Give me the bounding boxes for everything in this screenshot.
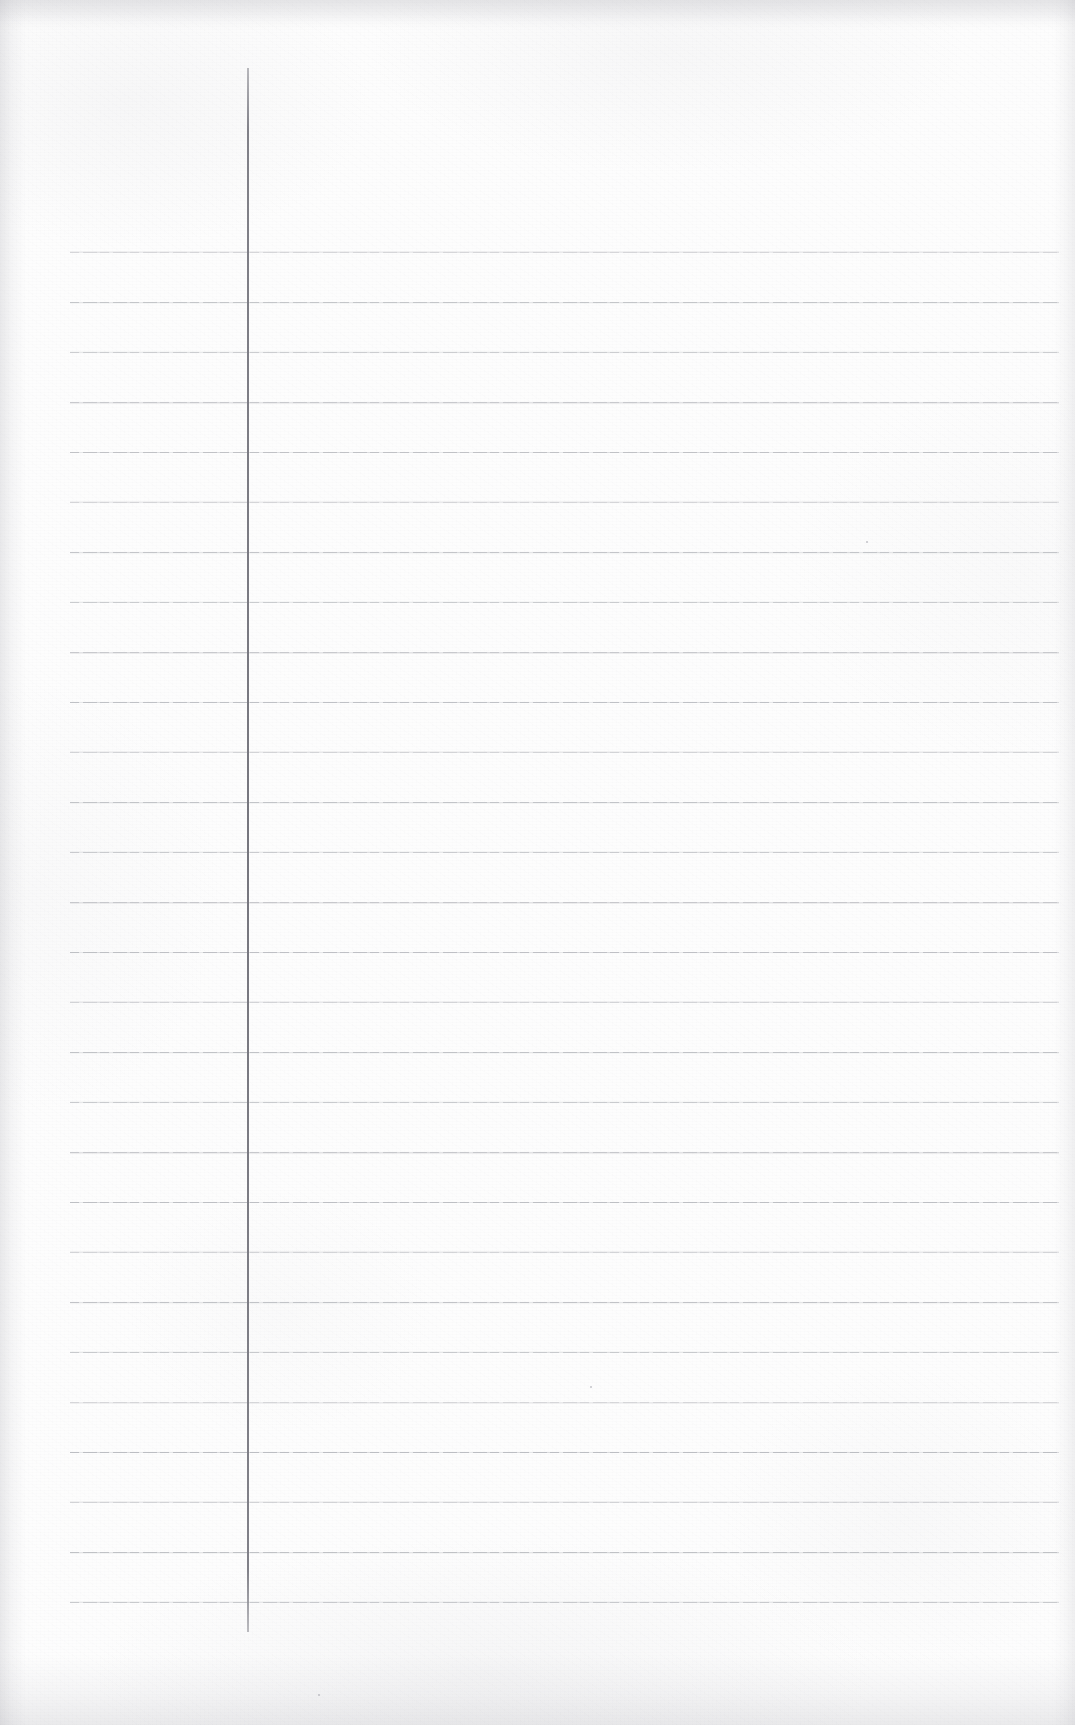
scan-speck (318, 1694, 320, 1696)
rule-line (70, 1202, 1059, 1203)
rule-line (70, 652, 1059, 653)
rule-line (70, 452, 1059, 453)
ruled-lines-layer (0, 0, 1075, 1725)
margin-rule-line (247, 68, 249, 1632)
rule-line (70, 752, 1059, 753)
rule-line (70, 1302, 1059, 1303)
rule-line (70, 502, 1059, 503)
rule-line (70, 1352, 1059, 1353)
rule-line (70, 702, 1059, 703)
scanned-page (0, 0, 1075, 1725)
rule-line (70, 352, 1059, 353)
rule-line (70, 1052, 1059, 1053)
rule-line (70, 302, 1059, 303)
rule-line (70, 802, 1059, 803)
rule-line (70, 1402, 1059, 1403)
rule-line (70, 252, 1059, 253)
rule-line (70, 1102, 1059, 1103)
rule-line (70, 1552, 1059, 1553)
rule-line (70, 1152, 1059, 1153)
rule-line (70, 552, 1059, 553)
rule-line (70, 402, 1059, 403)
rule-line (70, 1002, 1059, 1003)
rule-line (70, 1602, 1059, 1603)
rule-line (70, 602, 1059, 603)
scan-speck (866, 541, 868, 543)
rule-line (70, 1252, 1059, 1253)
rule-line (70, 1452, 1059, 1453)
rule-line (70, 902, 1059, 903)
scan-speck (590, 1386, 592, 1388)
rule-line (70, 852, 1059, 853)
rule-line (70, 952, 1059, 953)
rule-line (70, 1502, 1059, 1503)
